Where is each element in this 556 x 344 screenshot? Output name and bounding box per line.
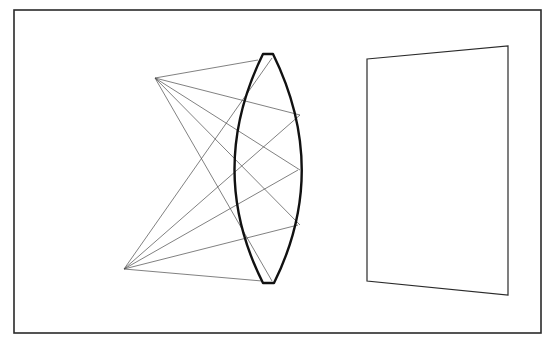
ray-line <box>155 78 300 170</box>
ray-line <box>155 78 272 281</box>
ray-line <box>124 269 262 281</box>
ray-line <box>155 78 300 225</box>
light-rays <box>124 58 300 281</box>
ray-line <box>124 115 300 269</box>
ray-line <box>155 78 300 115</box>
projection-screen <box>367 46 508 295</box>
ray-line <box>124 170 298 269</box>
lens-optics-diagram <box>0 0 556 344</box>
ray-line <box>155 60 258 78</box>
